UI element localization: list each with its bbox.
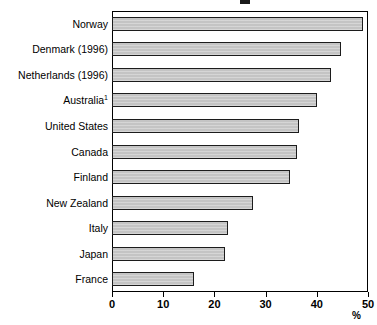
x-tick — [214, 292, 215, 297]
bars-layer — [112, 11, 368, 292]
x-tick — [266, 292, 267, 297]
category-label: Australia1 — [63, 94, 108, 106]
bar — [112, 272, 194, 286]
bar — [112, 17, 363, 31]
category-label: United States — [45, 120, 108, 132]
x-tick-label: 0 — [92, 298, 132, 311]
category-label: New Zealand — [46, 197, 108, 209]
truncated-title-mark — [240, 0, 250, 4]
bar — [112, 93, 317, 107]
category-label: Finland — [74, 171, 108, 183]
category-label: Japan — [79, 248, 108, 260]
bar-chart: NorwayDenmark (1996)Netherlands (1996)Au… — [0, 0, 377, 325]
bar — [112, 221, 228, 235]
bar — [112, 119, 299, 133]
bar — [112, 196, 253, 210]
category-footnote-marker: 1 — [104, 94, 108, 101]
bar — [112, 247, 225, 261]
category-axis-labels: NorwayDenmark (1996)Netherlands (1996)Au… — [0, 11, 108, 292]
bar — [112, 145, 297, 159]
x-tick-label: 20 — [194, 298, 234, 311]
bar — [112, 68, 331, 82]
x-tick-label: 40 — [297, 298, 337, 311]
x-axis-unit-label: % — [352, 310, 361, 322]
x-tick — [163, 292, 164, 297]
bar — [112, 170, 290, 184]
category-label: Italy — [89, 222, 108, 234]
x-tick-label: 10 — [143, 298, 183, 311]
x-tick — [112, 292, 113, 297]
x-tick — [317, 292, 318, 297]
x-tick-label: 30 — [246, 298, 286, 311]
category-label: Netherlands (1996) — [18, 69, 108, 81]
category-label: France — [75, 273, 108, 285]
bar — [112, 42, 341, 56]
category-label: Canada — [71, 146, 108, 158]
x-tick — [368, 292, 369, 297]
category-label: Norway — [72, 18, 108, 30]
category-label: Denmark (1996) — [32, 43, 108, 55]
